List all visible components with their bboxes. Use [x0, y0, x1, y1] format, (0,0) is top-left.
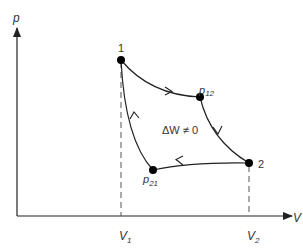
- v1-label: V1: [119, 229, 131, 245]
- process-1-to-p12: [121, 60, 200, 97]
- pv-diagram: p V V1 V2 1 p12 2 p21 ΔW ≠ 0: [0, 0, 303, 250]
- process-2-to-p21: [153, 156, 249, 170]
- y-axis-label: p: [12, 11, 20, 25]
- state-point-p21: [149, 166, 157, 174]
- direction-arrow-icon: [130, 112, 139, 119]
- state-point-1: [117, 56, 125, 64]
- process-p21-to-1: [121, 60, 153, 170]
- point-1-label: 1: [118, 42, 124, 54]
- direction-arrow-icon: [176, 156, 183, 165]
- point-p21-label: p21: [142, 173, 158, 188]
- process-p12-to-2: [200, 97, 249, 163]
- point-2-label: 2: [258, 158, 264, 170]
- point-p12-label: p12: [198, 84, 215, 98]
- work-annotation: ΔW ≠ 0: [162, 124, 198, 136]
- state-point-2: [245, 159, 253, 167]
- x-axis-label: V: [293, 211, 302, 225]
- v2-label: V2: [247, 229, 260, 245]
